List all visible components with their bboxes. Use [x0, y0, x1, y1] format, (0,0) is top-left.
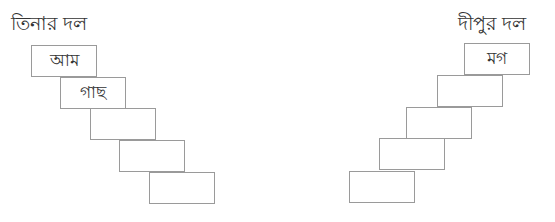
left-word-box-1[interactable]	[31, 45, 97, 77]
right-word-input-4[interactable]	[380, 139, 444, 169]
right-team-title: দীপুর দল	[458, 12, 526, 34]
right-word-input-1[interactable]	[465, 44, 529, 74]
left-team-title: তিনার দল	[11, 12, 87, 34]
right-word-box-3[interactable]	[406, 107, 472, 139]
right-word-box-2[interactable]	[437, 75, 503, 107]
right-word-box-4[interactable]	[379, 138, 445, 170]
left-word-input-2[interactable]	[61, 78, 125, 108]
left-word-input-3[interactable]	[91, 109, 155, 139]
left-word-box-2[interactable]	[60, 77, 126, 109]
left-word-input-5[interactable]	[150, 173, 214, 203]
left-word-box-3[interactable]	[90, 108, 156, 140]
left-word-box-4[interactable]	[119, 140, 185, 172]
right-word-box-1[interactable]	[464, 43, 530, 75]
left-word-input-4[interactable]	[120, 141, 184, 171]
right-word-box-5[interactable]	[349, 171, 415, 203]
left-word-input-1[interactable]	[32, 46, 96, 76]
right-word-input-5[interactable]	[350, 172, 414, 202]
right-word-input-3[interactable]	[407, 108, 471, 138]
left-word-box-5[interactable]	[149, 172, 215, 204]
right-word-input-2[interactable]	[438, 76, 502, 106]
